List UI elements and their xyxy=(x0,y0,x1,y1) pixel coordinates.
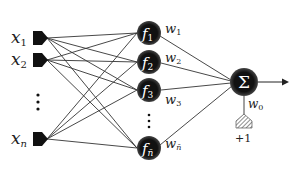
weight-label-n: wn̄ xyxy=(165,136,181,152)
input-label-2: x2 xyxy=(11,49,27,70)
bias-value-label: +1 xyxy=(235,132,251,145)
output-arrow-head xyxy=(282,79,289,86)
hidden-ellipsis xyxy=(148,114,151,129)
input-node-1 xyxy=(33,31,48,45)
input-label-n: xn xyxy=(11,128,27,149)
input-hidden-edges xyxy=(47,33,137,148)
input-node-n xyxy=(33,132,48,146)
weight-label-1: w1 xyxy=(165,21,181,37)
input-ellipsis xyxy=(36,93,39,110)
weight-label-2: w2 xyxy=(165,50,181,66)
sigma-symbol: Σ xyxy=(238,72,250,92)
input-label-1: x1 xyxy=(11,27,27,48)
bias-weight-label: w0 xyxy=(248,97,263,112)
weight-label-3: w3 xyxy=(165,92,181,108)
input-nodes xyxy=(33,31,48,146)
bias-node xyxy=(236,114,252,128)
neural-network-diagram: x1 x2 xn f1 f2 f3 fn̄ w1 w2 w3 wn̄ w0 +1… xyxy=(0,0,303,171)
input-node-2 xyxy=(33,53,48,67)
